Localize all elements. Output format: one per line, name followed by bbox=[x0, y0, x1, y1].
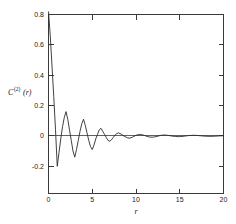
x-tick-label-0: 0 bbox=[47, 196, 51, 203]
y-axis-title: C (2) (r) bbox=[8, 86, 32, 97]
correlation-function-plot: 0.8 0.6 0.4 0.2 0 -0.2 0 5 10 15 20 r C … bbox=[0, 0, 236, 224]
y-tick-label-0: 0.8 bbox=[34, 11, 44, 18]
y-tick-label-4: 0 bbox=[40, 132, 44, 139]
y-tick-marks bbox=[49, 15, 224, 167]
correlation-curve bbox=[49, 11, 224, 166]
x-tick-label-4: 20 bbox=[220, 196, 228, 203]
y-tick-label-1: 0.6 bbox=[34, 41, 44, 48]
x-tick-label-2: 10 bbox=[132, 196, 140, 203]
x-tick-marks bbox=[49, 15, 224, 194]
y-tick-label-5: -0.2 bbox=[32, 163, 44, 170]
y-tick-label-2: 0.4 bbox=[34, 72, 44, 79]
y-tick-label-3: 0.2 bbox=[34, 102, 44, 109]
y-axis-title-superscript: (2) bbox=[14, 86, 21, 93]
x-tick-label-1: 5 bbox=[90, 196, 94, 203]
plot-frame bbox=[49, 15, 224, 194]
x-tick-label-3: 15 bbox=[176, 196, 184, 203]
x-axis-title: r bbox=[134, 207, 138, 216]
y-axis-title-argument: (r) bbox=[23, 88, 32, 97]
figure-container: 0.8 0.6 0.4 0.2 0 -0.2 0 5 10 15 20 r C … bbox=[0, 0, 236, 224]
